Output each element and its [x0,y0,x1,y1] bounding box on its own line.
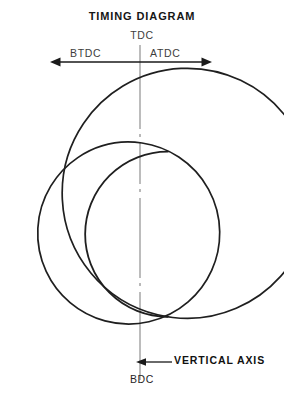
bdc-label: BDC [0,374,284,385]
timing-diagram-graphic [0,0,284,403]
btdc-label: BTDC [70,48,101,59]
timing-diagram-canvas: TIMING DIAGRAM TDC BTDC ATDC VERTICAL AX… [0,0,284,403]
arrow-left-icon [136,358,146,366]
tdc-label: TDC [0,30,284,41]
atdc-label: ATDC [150,48,181,59]
vertical-axis-label: VERTICAL AXIS [174,355,265,366]
inner-circle-arc-main [85,152,168,317]
arrow-left-icon [50,58,61,67]
vertical-axis-leader-group [136,358,172,366]
arrow-right-icon [202,58,213,67]
page-title: TIMING DIAGRAM [0,11,284,22]
